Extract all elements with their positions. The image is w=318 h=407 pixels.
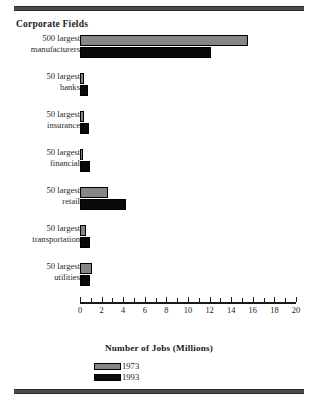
chart-title: Corporate Fields: [16, 19, 88, 29]
category-label: 50 largestutilities: [2, 261, 80, 282]
bottom-rule: [14, 389, 304, 394]
category-label: 500 largestmanufacturers: [2, 33, 80, 54]
bars-container: [80, 111, 89, 134]
bar-1973: [80, 149, 83, 160]
bars-container: [80, 225, 90, 248]
category-label-line2: insurance: [2, 120, 80, 131]
bar-group: 500 largestmanufacturers: [0, 33, 318, 71]
bars-container: [80, 149, 90, 172]
category-label-line1: 50 largest: [47, 109, 81, 119]
legend-label: 1973: [122, 361, 139, 372]
x-tick-label: 0: [70, 306, 90, 315]
x-tick-label: 2: [92, 306, 112, 315]
x-tick-major: [145, 297, 146, 302]
x-tick-label: 14: [221, 306, 241, 315]
x-tick-minor: [134, 298, 135, 302]
x-tick-minor: [91, 298, 92, 302]
top-rule: [14, 6, 304, 11]
legend-swatch-1973: [94, 363, 121, 370]
x-tick-minor: [156, 298, 157, 302]
x-tick-major: [253, 297, 254, 302]
bar-rows: 500 largestmanufacturers50 largestbanks5…: [0, 33, 318, 299]
bar-1993: [80, 275, 90, 286]
category-label-line1: 50 largest: [47, 147, 81, 157]
bar-group: 50 largestfinancial: [0, 147, 318, 185]
category-label-line1: 50 largest: [47, 71, 81, 81]
bar-1993: [80, 161, 90, 172]
x-tick-minor: [220, 298, 221, 302]
x-tick-major: [102, 297, 103, 302]
x-axis: [80, 302, 296, 304]
x-tick-major: [80, 297, 81, 302]
category-label: 50 largesttransportation: [2, 223, 80, 244]
x-tick-minor: [264, 298, 265, 302]
bar-1993: [80, 199, 126, 210]
category-label: 50 largestfinancial: [2, 147, 80, 168]
category-label-line2: financial: [2, 158, 80, 169]
x-tick-major: [296, 297, 297, 302]
bar-1973: [80, 35, 248, 46]
bar-1973: [80, 225, 86, 236]
x-tick-label: 10: [178, 306, 198, 315]
bar-1973: [80, 263, 92, 274]
category-label: 50 largestbanks: [2, 71, 80, 92]
x-tick-minor: [285, 298, 286, 302]
category-label: 50 largestretail: [2, 185, 80, 206]
bar-1973: [80, 73, 84, 84]
bar-group: 50 largesttransportation: [0, 223, 318, 261]
category-label-line1: 50 largest: [47, 223, 81, 233]
x-axis-title: Number of Jobs (Millions): [0, 343, 318, 353]
bar-1993: [80, 47, 211, 58]
x-tick-major: [210, 297, 211, 302]
category-label-line2: manufacturers: [2, 44, 80, 55]
x-tick-label: 12: [200, 306, 220, 315]
x-tick-major: [274, 297, 275, 302]
bar-group: 50 largestretail: [0, 185, 318, 223]
bars-container: [80, 187, 126, 210]
legend-label: 1993: [122, 372, 139, 383]
chart-page: Corporate Fields 500 largestmanufacturer…: [0, 0, 318, 407]
x-tick-label: 6: [135, 306, 155, 315]
category-label-line2: transportation: [2, 234, 80, 245]
bar-group: 50 largestutilities: [0, 261, 318, 299]
bars-container: [80, 263, 92, 286]
bar-1973: [80, 111, 84, 122]
bars-container: [80, 73, 88, 96]
x-tick-label: 20: [286, 306, 306, 315]
bar-group: 50 largestinsurance: [0, 109, 318, 147]
x-tick-major: [188, 297, 189, 302]
x-tick-major: [166, 297, 167, 302]
category-label-line2: banks: [2, 82, 80, 93]
category-label-line1: 500 largest: [42, 33, 80, 43]
legend-swatch-1993: [94, 374, 121, 381]
bar-1993: [80, 237, 90, 248]
legend-item: 1973: [94, 361, 139, 372]
bar-1973: [80, 187, 108, 198]
x-tick-label: 16: [243, 306, 263, 315]
bar-group: 50 largestbanks: [0, 71, 318, 109]
x-tick-major: [123, 297, 124, 302]
bar-1993: [80, 123, 89, 134]
category-label-line1: 50 largest: [47, 185, 81, 195]
category-label: 50 largestinsurance: [2, 109, 80, 130]
x-tick-minor: [199, 298, 200, 302]
bar-1993: [80, 85, 88, 96]
legend: 19731993: [94, 361, 139, 383]
x-tick-label: 18: [264, 306, 284, 315]
category-label-line2: retail: [2, 196, 80, 207]
category-label-line1: 50 largest: [47, 261, 81, 271]
legend-item: 1993: [94, 372, 139, 383]
x-tick-minor: [112, 298, 113, 302]
plot-area: 500 largestmanufacturers50 largestbanks5…: [0, 33, 318, 315]
x-tick-label: 8: [156, 306, 176, 315]
x-tick-major: [231, 297, 232, 302]
x-tick-minor: [177, 298, 178, 302]
x-tick-minor: [242, 298, 243, 302]
bars-container: [80, 35, 248, 58]
category-label-line2: utilities: [2, 272, 80, 283]
x-tick-label: 4: [113, 306, 133, 315]
